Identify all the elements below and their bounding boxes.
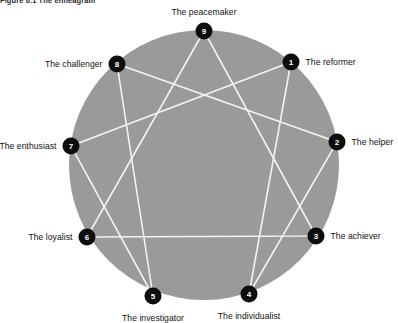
node-label-1: The reformer bbox=[306, 57, 356, 67]
node-marker-8[interactable]: 8 bbox=[109, 56, 126, 73]
node-label-3: The achiever bbox=[331, 231, 381, 241]
node-number-7: 7 bbox=[69, 142, 74, 151]
node-number-4: 4 bbox=[247, 290, 252, 299]
node-label-8: The challenger bbox=[45, 59, 103, 69]
node-marker-3[interactable]: 3 bbox=[308, 228, 325, 245]
node-number-5: 5 bbox=[151, 292, 156, 301]
node-label-2: The helper bbox=[352, 137, 394, 147]
node-label-4: The individualist bbox=[194, 311, 304, 321]
node-marker-7[interactable]: 7 bbox=[63, 138, 80, 155]
node-number-3: 3 bbox=[314, 232, 319, 241]
node-number-8: 8 bbox=[115, 60, 120, 69]
enneagram-circle bbox=[69, 30, 339, 300]
node-marker-9[interactable]: 9 bbox=[196, 23, 213, 40]
node-marker-5[interactable]: 5 bbox=[145, 288, 162, 305]
node-marker-1[interactable]: 1 bbox=[283, 54, 300, 71]
node-number-6: 6 bbox=[85, 233, 90, 242]
node-number-2: 2 bbox=[335, 138, 340, 147]
node-label-6: The loyalist bbox=[28, 232, 72, 242]
node-marker-2[interactable]: 2 bbox=[329, 134, 346, 151]
node-number-1: 1 bbox=[289, 58, 294, 67]
node-label-5: The investigator bbox=[98, 313, 208, 323]
node-label-9: The peacemaker bbox=[0, 7, 398, 17]
node-marker-4[interactable]: 4 bbox=[241, 286, 258, 303]
node-label-7: The enthusiast bbox=[0, 141, 57, 151]
node-number-9: 9 bbox=[202, 27, 207, 36]
node-marker-6[interactable]: 6 bbox=[79, 229, 96, 246]
